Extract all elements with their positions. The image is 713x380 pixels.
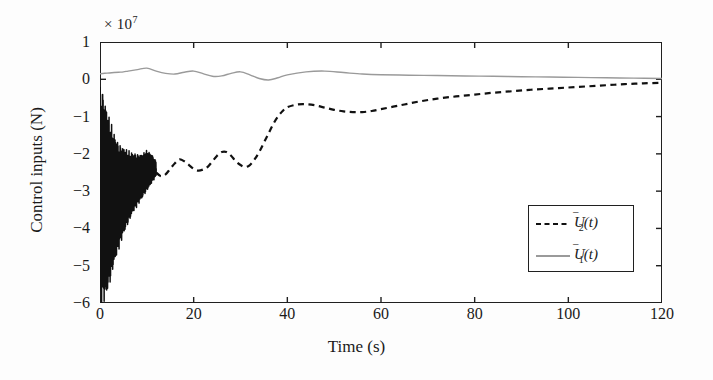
x-tick-label: 0 xyxy=(96,306,104,322)
y-axis-exponent-power: 7 xyxy=(132,14,137,25)
legend-u2-arg: (t) xyxy=(584,214,598,230)
x-axis-tick-labels: 020406080100120 xyxy=(0,306,713,330)
legend-entry-u2: U̅2(t) xyxy=(529,207,635,240)
series-transient-u2 xyxy=(100,88,156,303)
legend-entry-u1: U̅1(t) xyxy=(529,239,635,272)
x-axis-title: Time (s) xyxy=(0,337,713,357)
y-tick-label: 0 xyxy=(68,71,90,87)
series-line-u2 xyxy=(156,83,662,177)
y-axis-title: Control inputs (N) xyxy=(27,45,47,295)
legend-box: U̅2(t) U̅1(t) xyxy=(528,205,634,272)
legend-sample-solid xyxy=(535,250,571,262)
y-tick-label: −4 xyxy=(68,220,90,236)
x-tick-label: 80 xyxy=(467,306,483,322)
legend-label-u1: U̅1(t) xyxy=(574,246,598,265)
legend-u1-arg: (t) xyxy=(584,246,598,262)
y-tick-label: 1 xyxy=(68,34,90,50)
x-tick-label: 100 xyxy=(556,306,580,322)
x-tick-label: 120 xyxy=(650,306,674,322)
y-tick-label: −5 xyxy=(68,258,90,274)
y-tick-label: −2 xyxy=(68,146,90,162)
y-axis-exponent-base: × 10 xyxy=(104,16,132,32)
y-axis-exponent: × 107 xyxy=(104,14,138,33)
series-line-u1 xyxy=(100,68,662,80)
legend-sample-dashed xyxy=(535,218,571,230)
x-tick-label: 20 xyxy=(186,306,202,322)
x-tick-label: 40 xyxy=(279,306,295,322)
legend-label-u2: U̅2(t) xyxy=(574,214,598,233)
y-tick-label: −1 xyxy=(68,109,90,125)
y-tick-label: −3 xyxy=(68,183,90,199)
figure-canvas: × 107 10−1−2−3−4−5−6 020406080100120 Tim… xyxy=(0,0,713,380)
x-tick-label: 60 xyxy=(373,306,389,322)
